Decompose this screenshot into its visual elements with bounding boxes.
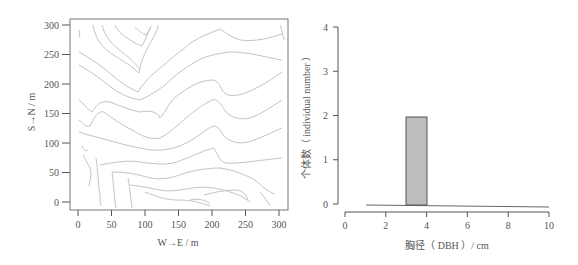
left-ytick-label: 50	[49, 167, 59, 178]
left-x-axis: 0 50 100 150 200 250 300 W→E / m	[76, 210, 287, 248]
right-ytick-label: 2	[323, 110, 328, 121]
right-ytick-label: 0	[323, 199, 328, 210]
left-xtick-label: 50	[107, 219, 117, 230]
left-xtick-label: 200	[205, 219, 220, 230]
right-xtick-label: 6	[465, 220, 470, 231]
figure: 0 50 100 150 200 250 300 S→N / m 0 50 10…	[0, 0, 578, 265]
right-y-axis-label: 个体数（ individual number ）	[300, 51, 312, 180]
right-ytick-label: 3	[323, 66, 328, 77]
right-x-axis-label: 胸径（ DBH ）/ cm	[405, 239, 489, 251]
left-x-axis-label: W→E / m	[157, 237, 198, 248]
left-ytick-label: 150	[44, 108, 59, 119]
left-ytick-label: 100	[44, 138, 59, 149]
right-xtick-label: 8	[506, 220, 511, 231]
right-ytick-label: 1	[323, 154, 328, 165]
plot-frame	[70, 19, 288, 210]
histogram-baseline	[366, 205, 549, 207]
dbh-histogram-panel: 0 1 2 3 4 个体数（ individual number ） 0 2 4…	[300, 22, 554, 252]
right-x-axis: 0 2 4 6 8 10 胸径（ DBH ）/ cm	[343, 212, 555, 251]
left-ytick-label: 250	[44, 49, 59, 60]
histogram-bar-3-4cm	[406, 117, 427, 205]
right-xtick-label: 2	[383, 220, 388, 231]
left-ytick-label: 300	[44, 20, 59, 31]
contour-map-panel: 0 50 100 150 200 250 300 S→N / m 0 50 10…	[26, 19, 288, 248]
right-ytick-label: 4	[323, 22, 328, 33]
left-xtick-label: 300	[272, 219, 287, 230]
right-xtick-label: 4	[424, 220, 429, 231]
left-ytick-label: 0	[54, 197, 59, 208]
right-xtick-label: 0	[343, 220, 348, 231]
left-y-axis-label: S→N / m	[26, 93, 37, 132]
left-xtick-label: 0	[76, 219, 81, 230]
left-ytick-label: 200	[44, 79, 59, 90]
left-xtick-label: 100	[138, 219, 153, 230]
right-y-axis: 0 1 2 3 4 个体数（ individual number ）	[300, 22, 338, 210]
left-y-axis: 0 50 100 150 200 250 300 S→N / m	[26, 20, 70, 208]
left-xtick-label: 250	[238, 219, 253, 230]
right-xtick-label: 10	[544, 220, 554, 231]
left-xtick-label: 150	[171, 219, 186, 230]
